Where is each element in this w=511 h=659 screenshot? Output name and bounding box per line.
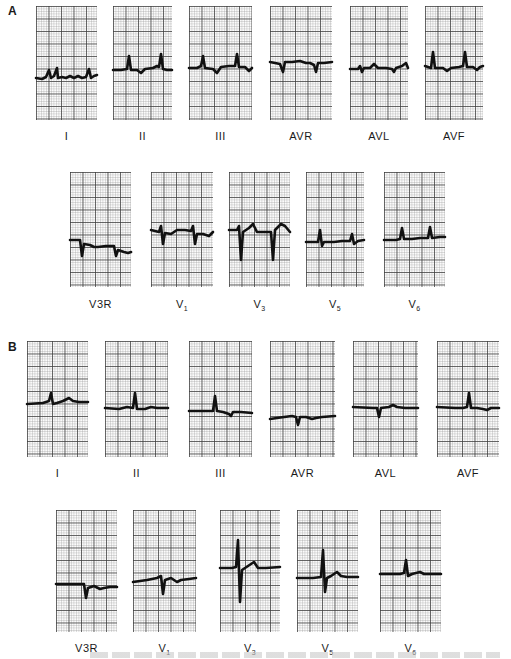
lead-label-a-iii: III	[186, 130, 256, 142]
ecg-strip-b-avr	[270, 341, 335, 457]
ecg-strip-a-v5	[306, 172, 364, 287]
lead-label-b-iii: III	[186, 467, 256, 479]
ecg-strip-a-avr	[270, 6, 332, 120]
ecg-strip-a-v3r	[70, 172, 131, 287]
ecg-strip-a-v3	[229, 172, 290, 287]
ecg-trace	[350, 6, 408, 120]
lead-label-b-ii: II	[102, 467, 172, 479]
ecg-trace	[151, 172, 213, 287]
panel-letter-a: A	[8, 4, 17, 18]
ecg-trace	[113, 6, 172, 120]
lead-label-a-v3r: V3R	[66, 298, 136, 310]
lead-label-a-v1: V1	[147, 298, 217, 312]
ecg-strip-b-ii	[105, 341, 168, 457]
ecg-trace	[70, 172, 131, 287]
lead-label-b-avr: AVR	[268, 467, 338, 479]
ecg-strip-b-v3r	[56, 510, 117, 632]
lead-label-b-i: I	[23, 467, 93, 479]
lead-label-a-v3: V3	[225, 298, 295, 312]
lead-label-b-avl: AVL	[351, 467, 421, 479]
ecg-strip-a-i	[36, 6, 97, 120]
lead-label-a-avf: AVF	[419, 130, 489, 142]
ecg-trace	[105, 341, 168, 457]
ecg-trace	[133, 510, 196, 632]
ecg-strip-b-avf	[437, 341, 499, 457]
ecg-trace	[425, 6, 483, 120]
lead-label-a-v5: V5	[300, 298, 370, 312]
ecg-strip-a-v6	[384, 172, 445, 287]
ecg-trace	[189, 341, 252, 457]
ecg-trace	[353, 341, 418, 457]
ecg-strip-b-v3	[220, 510, 280, 632]
lead-label-a-ii: II	[108, 130, 178, 142]
ecg-strip-b-i	[27, 341, 88, 457]
ecg-trace	[189, 6, 252, 120]
ecg-trace	[36, 6, 97, 120]
ecg-trace	[270, 6, 332, 120]
lead-label-a-avr: AVR	[266, 130, 336, 142]
lead-label-a-avl: AVL	[344, 130, 414, 142]
lead-label-a-i: I	[32, 130, 102, 142]
ecg-strip-b-v5	[297, 510, 358, 632]
ecg-trace	[384, 172, 445, 287]
ecg-trace	[306, 172, 364, 287]
ecg-trace	[270, 341, 335, 457]
ecg-trace	[380, 510, 441, 632]
lead-label-b-avf: AVF	[433, 467, 503, 479]
ecg-strip-b-v6	[380, 510, 441, 632]
ecg-strip-a-v1	[151, 172, 213, 287]
ecg-strip-a-iii	[189, 6, 252, 120]
ecg-strip-b-avl	[353, 341, 418, 457]
ecg-strip-a-ii	[113, 6, 172, 120]
ecg-strip-b-v1	[133, 510, 196, 632]
lead-label-a-v6: V6	[380, 298, 450, 312]
ecg-trace	[56, 510, 117, 632]
ecg-trace	[220, 510, 280, 632]
ecg-strip-a-avf	[425, 6, 483, 120]
ecg-trace	[27, 341, 88, 457]
ecg-trace	[229, 172, 290, 287]
ecg-trace	[297, 510, 358, 632]
ecg-trace	[437, 341, 499, 457]
ecg-strip-b-iii	[189, 341, 252, 457]
ecg-strip-a-avl	[350, 6, 408, 120]
panel-letter-b: B	[8, 340, 17, 354]
figure-caption-cutoff	[90, 652, 500, 658]
